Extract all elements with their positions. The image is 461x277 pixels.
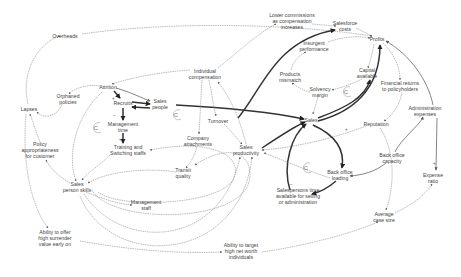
edge-sales-loading <box>313 125 343 168</box>
edge-admin-expense <box>436 118 437 170</box>
edge-admin-profits <box>386 41 433 105</box>
node-profits: Profits <box>370 36 385 42</box>
node-individual-compensation: Individualcompensation <box>189 68 221 80</box>
edge-skills-productivity-2 <box>80 157 252 246</box>
edge-solvency-mismatch <box>292 83 310 92</box>
node-attrition: Attrition <box>99 84 117 90</box>
node-reputation: Reputation <box>363 121 388 127</box>
node-solvency-margin: Solvencymargin <box>309 86 330 98</box>
node-expense-ratio: Expenseratio <box>423 172 443 184</box>
polarity-sign: + <box>119 137 122 142</box>
node-insurgent-performance: Insurgentperformance <box>299 40 328 52</box>
node-management-staff: Managementstaff <box>131 199 162 211</box>
edge-skills-mgmtstaff <box>86 192 132 205</box>
edge-attrition-skills <box>72 92 102 181</box>
loop-marker: C <box>174 112 179 118</box>
edge-highvalue-target <box>80 241 222 253</box>
edge-compensation-commissions <box>218 24 276 68</box>
edge-skills-transit-loop <box>92 153 250 215</box>
edge-casesize-expense <box>395 184 432 213</box>
node-average-case-size: Averagecase size <box>373 211 395 223</box>
node-sales-productivity: Salesproductivity <box>233 144 260 156</box>
node-turnover: Turnover <box>208 118 229 124</box>
loop-marker: C <box>304 165 309 171</box>
node-transit-quality: Transitquality <box>175 167 191 179</box>
node-sales: Sales <box>305 117 318 123</box>
edge-appropriateness-lapses <box>30 114 40 142</box>
node-management-time: Managementtime <box>108 121 139 133</box>
edge-recruits-salespeople <box>132 102 150 104</box>
edge-lapses-overheads <box>26 36 60 104</box>
edge-compensation-turnover <box>209 80 216 116</box>
edge-attrition-recruits <box>114 91 120 98</box>
edge-capacity-loading <box>350 163 386 176</box>
loop-marker: C <box>344 89 349 95</box>
node-back-office-loading: Back officeloading <box>327 169 352 181</box>
node-capital-available: Capitalavailable <box>357 67 378 79</box>
node-back-office-capacity: Back officecapacity <box>379 152 404 164</box>
edge-training-skills <box>82 155 110 180</box>
edge-lapses-highvalue <box>25 114 48 228</box>
node-overheads: Overheads <box>52 33 78 39</box>
edge-productivity-sales <box>262 122 305 148</box>
node-orphaned-policies: Orphanedpolicies <box>56 93 79 105</box>
edge-mismatch-insurgent <box>291 52 306 70</box>
node-lapses: Lapses <box>21 106 38 112</box>
polarity-sign: + <box>433 161 436 166</box>
edge-loading-productivity <box>264 153 330 178</box>
edge-capacity-admin <box>395 117 423 152</box>
edge-time-sales <box>287 124 306 190</box>
edge-turnover-productivity <box>224 124 242 144</box>
edge-compensation-attrition <box>112 70 190 84</box>
node-poor-appropriateness: Policyappropriatenessfor customer <box>21 141 59 159</box>
polarity-sign: + <box>345 127 348 132</box>
node-salesforce-costs: Salesforcecosts <box>333 20 358 32</box>
edge-attachments-transit <box>186 146 197 168</box>
edge-profits-capital <box>368 44 374 68</box>
node-salesperson-time: Salespersons timeavailable for sellingor… <box>276 187 320 205</box>
polarity-sign: – <box>113 113 116 118</box>
polarity-sign: + <box>112 96 115 101</box>
polarity-sign: + <box>314 124 317 129</box>
edge-skills-appropriateness <box>46 160 70 183</box>
edge-sales-profits <box>318 45 380 121</box>
edge-salespeople-recruits <box>132 107 150 108</box>
edge-salespeople-sales <box>176 105 304 119</box>
node-training-skills: Training andSwitching staffs <box>110 144 146 156</box>
loop-marker: C <box>94 125 99 131</box>
edge-transit-skills <box>88 170 176 183</box>
node-sales-person-skills: Salesperson skills <box>63 181 92 193</box>
node-financial-returns: Financial returnsto policyholders <box>381 80 420 92</box>
edge-insurgent-profits <box>328 37 370 42</box>
edge-solvency-sales <box>313 97 318 114</box>
edge-costs-profits <box>356 28 372 36</box>
node-recruits: Recruits <box>113 100 132 106</box>
node-ability-target: Ability to targethigh net worthindividua… <box>224 242 259 260</box>
edge-skills-productivity-1 <box>84 157 240 232</box>
edge-returns-reputation <box>384 92 402 121</box>
causal-loop-diagram: OverheadsLower commissionsas compensatio… <box>0 0 461 277</box>
node-administration-expenses: Administrationexpenses <box>409 105 442 117</box>
node-products-mismatch: Productsmismatch <box>279 71 301 83</box>
node-company-attachments: Companyattachments <box>184 135 213 147</box>
edge-reputation-casesize <box>380 128 392 210</box>
edge-orphaned-lapses <box>37 104 62 116</box>
node-ability-high-value: Ability to offerhigh surrendervalue earl… <box>38 229 72 247</box>
node-sales-people: Salespeople <box>152 98 168 110</box>
edge-target-casesize <box>262 222 378 252</box>
